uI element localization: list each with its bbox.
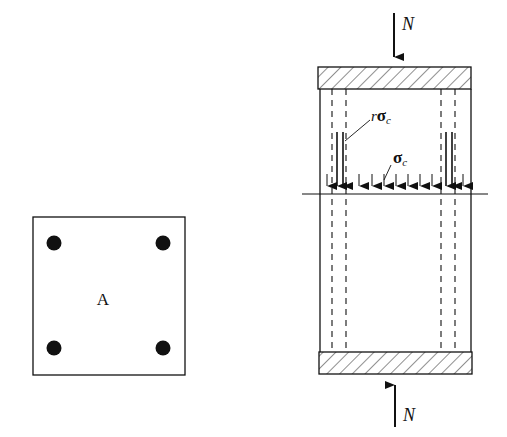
concrete-stress-arrows — [327, 174, 463, 186]
column-elevation: rσc σc N N — [302, 13, 488, 427]
bottom-load-label: N — [402, 405, 416, 425]
rebar-dot — [47, 236, 62, 251]
rebar-dot — [156, 236, 171, 251]
concrete-stress-leader — [384, 165, 391, 180]
steel-stress-label: rσc — [371, 106, 391, 126]
top-plate — [318, 67, 471, 89]
cross-section: A — [33, 217, 185, 375]
rebar-dashed-lines — [332, 89, 455, 352]
rebar-dot — [47, 341, 62, 356]
top-load-label: N — [401, 14, 415, 34]
rebar-dot — [156, 341, 171, 356]
steel-stress-leader — [345, 120, 370, 141]
diagram-canvas: A — [0, 0, 507, 437]
bottom-plate — [319, 352, 472, 374]
section-area-label: A — [97, 290, 110, 309]
concrete-stress-label: σc — [393, 148, 407, 168]
